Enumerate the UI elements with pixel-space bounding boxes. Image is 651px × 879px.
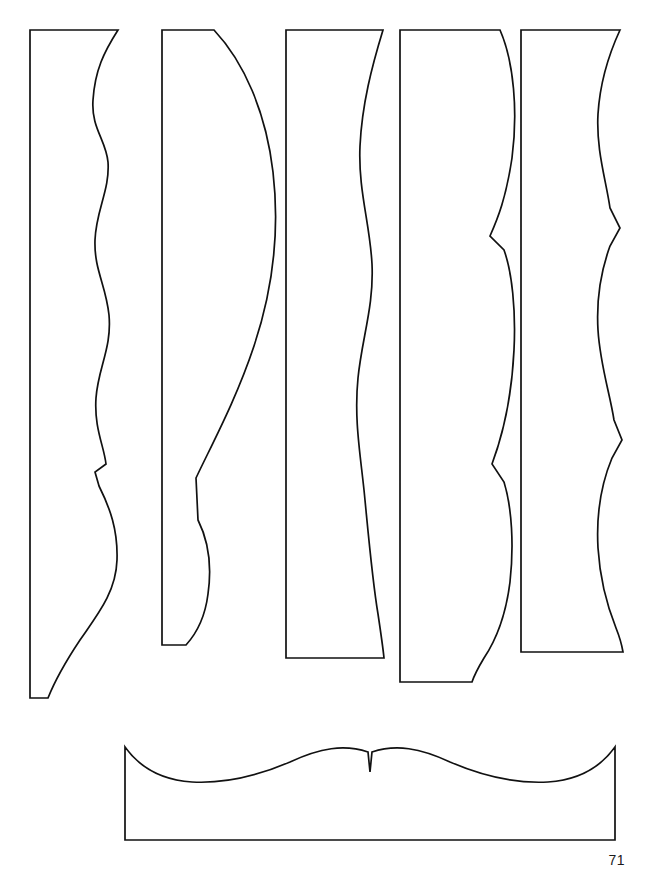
pattern-plate-drawing	[0, 0, 651, 879]
vertical-strip-4	[400, 30, 515, 682]
page-number: 71	[608, 853, 625, 867]
plate-page: 71	[0, 0, 651, 879]
